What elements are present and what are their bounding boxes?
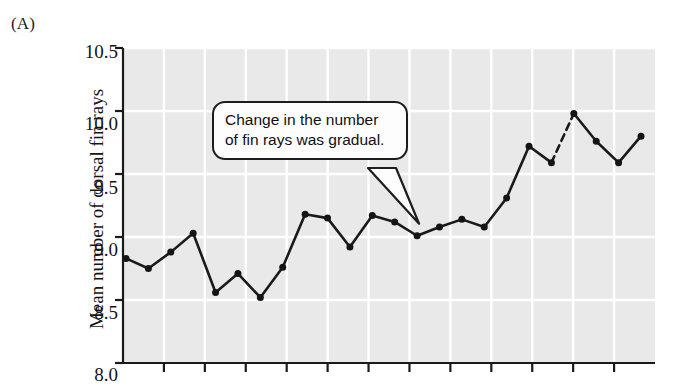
plot-background — [123, 48, 655, 363]
y-axis-ticks — [115, 48, 123, 363]
annotation-callout: Change in the number of fin rays was gra… — [212, 101, 408, 160]
figure-panel: (A) Mean number of dorsal fin rays 10.5 … — [0, 0, 680, 391]
chart-plot — [0, 0, 680, 391]
callout-line-1: Change in the number — [225, 110, 395, 130]
callout-line-2: of fin rays was gradual. — [225, 130, 395, 150]
x-axis-ticks — [164, 363, 614, 372]
